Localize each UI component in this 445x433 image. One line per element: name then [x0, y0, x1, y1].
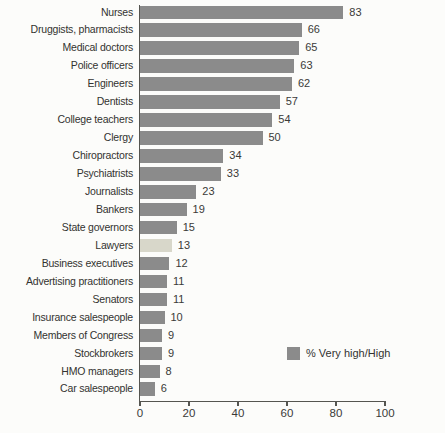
bar — [140, 167, 221, 181]
category-label: Police officers — [0, 59, 133, 73]
category-label: Stockbrokers — [0, 347, 133, 361]
bar-row: Chiropractors34 — [0, 149, 445, 163]
bar — [140, 382, 155, 396]
value-label: 65 — [305, 41, 317, 55]
category-label: Advertising practitioners — [0, 275, 133, 289]
bar-row: Bankers19 — [0, 203, 445, 217]
x-axis — [139, 401, 385, 402]
category-label: Lawyers — [0, 239, 133, 253]
bar-row: Journalists23 — [0, 185, 445, 199]
x-tick — [188, 401, 189, 406]
category-label: Journalists — [0, 185, 133, 199]
bar-highlighted — [140, 239, 172, 253]
category-label: Psychiatrists — [0, 167, 133, 181]
bar-row: Lawyers13 — [0, 239, 445, 253]
bar — [140, 95, 280, 109]
x-tick-label: 80 — [318, 407, 354, 419]
x-tick — [237, 401, 238, 406]
bar — [140, 347, 162, 361]
bar-row: Druggists, pharmacists66 — [0, 23, 445, 37]
x-tick — [139, 401, 140, 406]
bar — [140, 131, 263, 145]
category-label: Clergy — [0, 131, 133, 145]
bar — [140, 221, 177, 235]
value-label: 15 — [183, 221, 195, 235]
category-label: State governors — [0, 221, 133, 235]
bar — [140, 365, 160, 379]
value-label: 83 — [349, 6, 361, 20]
bar — [140, 275, 167, 289]
bar-row: HMO managers8 — [0, 365, 445, 379]
value-label: 62 — [298, 77, 310, 91]
bar — [140, 41, 299, 55]
category-label: Bankers — [0, 203, 133, 217]
bar-row: Members of Congress9 — [0, 329, 445, 343]
bar-row: Dentists57 — [0, 95, 445, 109]
bar — [140, 329, 162, 343]
bar-row: Advertising practitioners11 — [0, 275, 445, 289]
legend: % Very high/High — [287, 347, 390, 360]
category-label: Business executives — [0, 257, 133, 271]
value-label: 10 — [171, 311, 183, 325]
legend-label: % Very high/High — [306, 347, 390, 359]
bar-row: Car salespeople6 — [0, 382, 445, 396]
x-tick — [384, 401, 385, 406]
category-label: Insurance salespeople — [0, 311, 133, 325]
category-label: Druggists, pharmacists — [0, 23, 133, 37]
legend-swatch-icon — [287, 347, 300, 360]
x-tick-label: 60 — [269, 407, 305, 419]
bar-row: Nurses83 — [0, 6, 445, 20]
value-label: 6 — [161, 382, 167, 396]
value-label: 19 — [193, 203, 205, 217]
value-label: 54 — [278, 113, 290, 127]
category-label: Medical doctors — [0, 41, 133, 55]
bar-row: Police officers63 — [0, 59, 445, 73]
category-label: Engineers — [0, 77, 133, 91]
x-tick — [286, 401, 287, 406]
x-tick-label: 100 — [367, 407, 403, 419]
bar — [140, 23, 302, 37]
value-label: 50 — [269, 131, 281, 145]
category-label: Nurses — [0, 6, 133, 20]
bar — [140, 257, 169, 271]
value-label: 11 — [173, 275, 184, 289]
category-label: College teachers — [0, 113, 133, 127]
bar-row: Clergy50 — [0, 131, 445, 145]
bar — [140, 6, 343, 20]
bar-row: Senators11 — [0, 293, 445, 307]
x-tick — [335, 401, 336, 406]
value-label: 9 — [168, 329, 174, 343]
category-label: Car salespeople — [0, 382, 133, 396]
bar — [140, 311, 165, 325]
bar-row: State governors15 — [0, 221, 445, 235]
bar — [140, 113, 272, 127]
bar-row: Insurance salespeople10 — [0, 311, 445, 325]
value-label: 33 — [227, 167, 239, 181]
value-label: 23 — [202, 185, 214, 199]
bar-row: Psychiatrists33 — [0, 167, 445, 181]
value-label: 13 — [178, 239, 190, 253]
bar — [140, 77, 292, 91]
bar — [140, 185, 196, 199]
value-label: 9 — [168, 347, 174, 361]
value-label: 66 — [308, 23, 320, 37]
bar — [140, 293, 167, 307]
bar-row: Engineers62 — [0, 77, 445, 91]
honesty-ratings-bar-chart: Nurses83Druggists, pharmacists66Medical … — [0, 0, 445, 433]
y-axis — [139, 5, 140, 402]
category-label: Dentists — [0, 95, 133, 109]
bar-row: Medical doctors65 — [0, 41, 445, 55]
x-tick-label: 20 — [171, 407, 207, 419]
value-label: 63 — [300, 59, 312, 73]
bar-row: College teachers54 — [0, 113, 445, 127]
value-label: 12 — [175, 257, 187, 271]
category-label: Members of Congress — [0, 329, 133, 343]
category-label: Senators — [0, 293, 133, 307]
value-label: 11 — [173, 293, 184, 307]
bar — [140, 59, 294, 73]
bar — [140, 203, 187, 217]
bar — [140, 149, 223, 163]
category-label: Chiropractors — [0, 149, 133, 163]
value-label: 57 — [286, 95, 298, 109]
value-label: 34 — [229, 149, 241, 163]
